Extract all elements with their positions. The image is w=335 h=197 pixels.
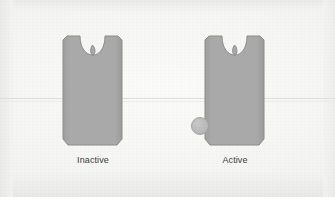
panel-inactive: [63, 36, 122, 145]
panel-label-active: Active: [205, 155, 265, 166]
receptor-body-inactive: [63, 36, 122, 145]
figure-page: Inactive Active: [0, 0, 335, 197]
receptor-body-active: [205, 36, 264, 145]
diagram-canvas: [0, 0, 335, 197]
ligand-icon: [192, 118, 209, 135]
receptor-diagram: Inactive Active: [0, 0, 335, 197]
panel-label-inactive: Inactive: [63, 155, 123, 166]
panel-active: [192, 36, 265, 145]
